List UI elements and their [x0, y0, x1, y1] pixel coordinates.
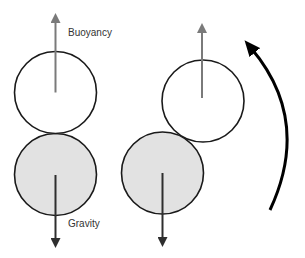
aligned-configuration: Buoyancy Gravity	[15, 18, 112, 243]
gravity-label: Gravity	[68, 218, 100, 229]
buoyancy-gravity-diagram: Buoyancy Gravity	[0, 0, 305, 258]
rotation-arrow-icon	[251, 48, 287, 210]
tilted-configuration	[122, 28, 245, 242]
buoyancy-label: Buoyancy	[68, 27, 112, 38]
